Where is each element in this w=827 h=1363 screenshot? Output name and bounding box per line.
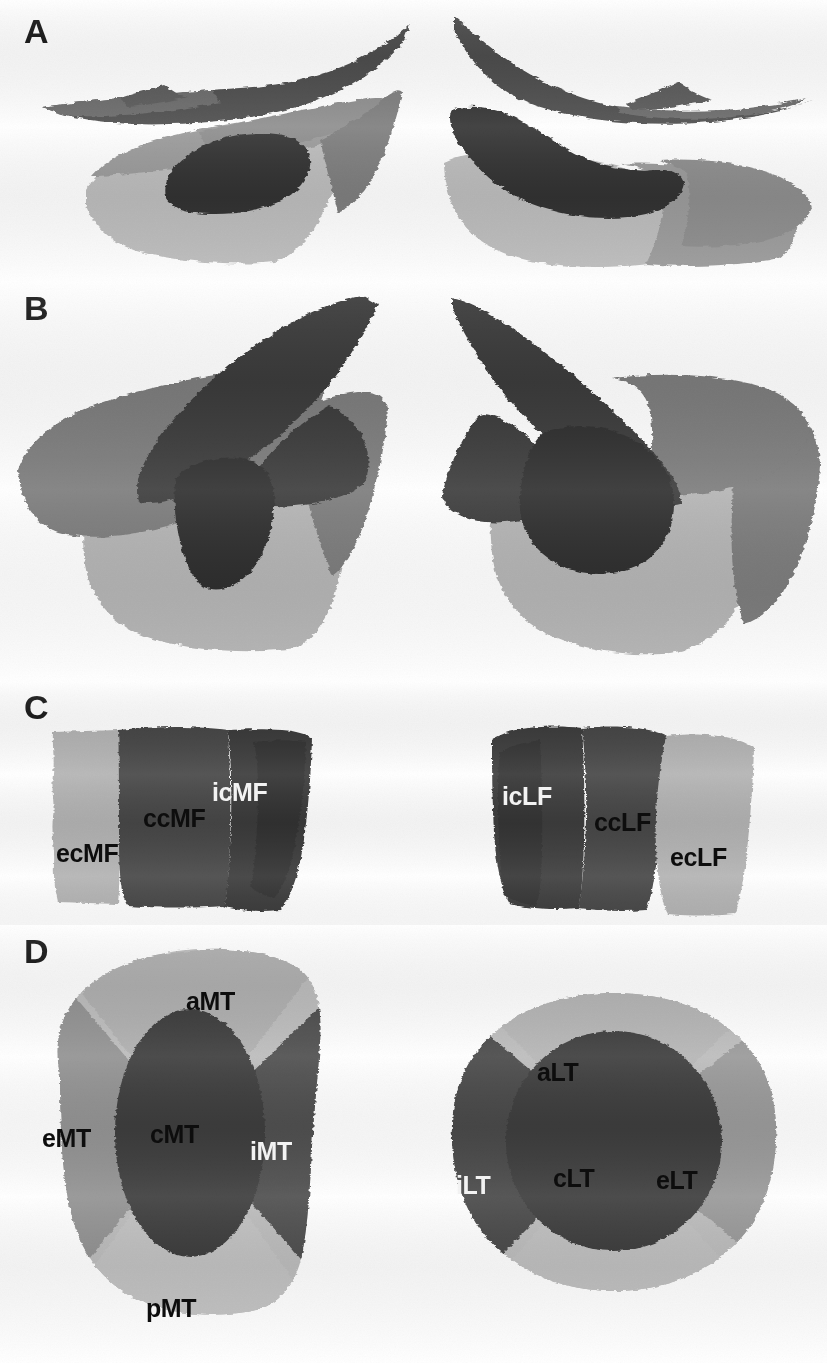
band-ccMF xyxy=(118,727,230,908)
panel-a-graphic xyxy=(0,0,827,282)
band-ccLF xyxy=(578,727,666,912)
panel-d-medial-plate xyxy=(20,925,352,1363)
panel-a: A xyxy=(0,0,827,282)
panel-c-lateral-plate xyxy=(492,727,754,916)
panel-d-lateral-plate xyxy=(430,925,810,1363)
band-ecMF xyxy=(52,730,120,904)
panel-c: C xyxy=(0,682,827,925)
panel-b: B xyxy=(0,282,827,682)
panel-a-lateral xyxy=(444,16,812,267)
plate-femoral-lateral-crest xyxy=(626,82,712,110)
band-ecLF xyxy=(656,735,754,916)
panel-a-medial xyxy=(42,24,410,264)
band-icMF-shade xyxy=(250,741,306,899)
panel-d-graphic xyxy=(0,925,827,1363)
panel-d: D xyxy=(0,925,827,1363)
panel-b-medial xyxy=(18,296,388,651)
band-icLF-shade xyxy=(498,740,542,906)
region-cLT xyxy=(506,1031,722,1251)
panel-b-graphic xyxy=(0,282,827,682)
contact-region-b-lateral xyxy=(520,426,674,574)
region-cMT xyxy=(115,1009,265,1257)
panel-c-graphic xyxy=(0,682,827,925)
figure-canvas: A xyxy=(0,0,827,1363)
panel-c-medial-plate xyxy=(52,727,312,911)
panel-b-lateral xyxy=(442,298,820,654)
